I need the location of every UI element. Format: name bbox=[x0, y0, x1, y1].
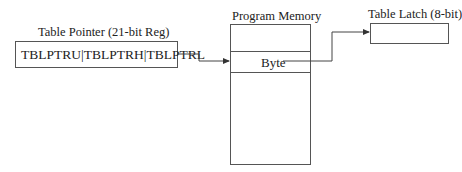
pointer-to-memory-arrow bbox=[178, 54, 229, 61]
connection-arrows bbox=[0, 0, 462, 172]
byte-to-latch-arrow bbox=[283, 32, 369, 61]
